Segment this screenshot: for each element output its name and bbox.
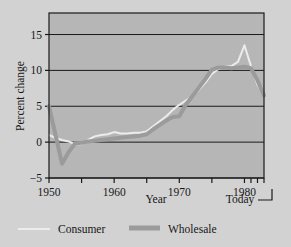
plot-background xyxy=(49,13,264,178)
y-tick-label-10: 10 xyxy=(31,64,43,76)
y-tick-label-5: 5 xyxy=(36,100,42,112)
x-tick-label-1970: 1970 xyxy=(168,186,191,198)
line-chart-svg: −5051015 1950196019701980 Percent change… xyxy=(0,0,291,247)
today-annotation-label: Today xyxy=(226,193,255,206)
chart-figure: −5051015 1950196019701980 Percent change… xyxy=(0,0,291,247)
legend-label-consumer: Consumer xyxy=(58,223,105,235)
y-tick-label-0: 0 xyxy=(36,136,42,148)
y-axis-title: Percent change xyxy=(14,61,27,131)
y-tick-label-15: 15 xyxy=(31,29,43,41)
x-axis-title: Year xyxy=(145,193,166,205)
y-tick-label--5: −5 xyxy=(30,172,42,184)
legend-label-wholesale: Wholesale xyxy=(168,223,217,235)
x-tick-label-1960: 1960 xyxy=(103,186,126,198)
x-tick-label-1950: 1950 xyxy=(38,186,61,198)
chart-canvas: −5051015 1950196019701980 Percent change… xyxy=(0,0,291,247)
